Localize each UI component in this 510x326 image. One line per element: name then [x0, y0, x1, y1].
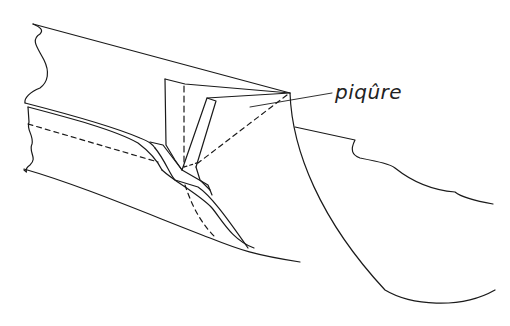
right-raw-edge	[295, 127, 493, 204]
stitch-label: piqûre	[335, 80, 402, 104]
stitch-dashed-short	[184, 162, 200, 167]
stitch-dashed-line	[198, 95, 287, 163]
fabric-fold-drawing	[0, 0, 510, 326]
diagram-canvas: piqûre	[0, 0, 510, 326]
lower-left-raw-edge	[24, 107, 33, 172]
top-panel-edge	[33, 24, 290, 93]
curved-panel-edge	[290, 93, 495, 303]
fold-layer-2	[155, 148, 248, 248]
dashed-fold-line-lower	[185, 185, 214, 236]
top-panel-left-raw-edge	[25, 24, 48, 103]
bottom-edge	[24, 169, 300, 262]
fold-layer-1	[150, 142, 212, 195]
flap-left-side	[165, 79, 182, 170]
